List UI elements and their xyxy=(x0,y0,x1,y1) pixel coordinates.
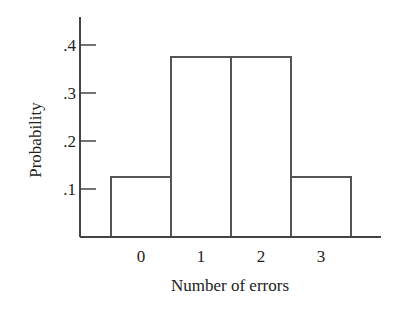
y-tick-label: .3 xyxy=(63,84,76,103)
x-tick-label: 3 xyxy=(317,247,326,266)
x-tick-label: 0 xyxy=(137,247,146,266)
x-tick-labels: 0123 xyxy=(137,247,326,266)
bar-0 xyxy=(111,177,171,237)
y-tick-label: .1 xyxy=(63,180,76,199)
bar-3 xyxy=(291,177,351,237)
y-tick-label: .4 xyxy=(63,36,76,55)
bar-2 xyxy=(231,57,291,237)
histogram-chart: .1.2.3.4 0123 Number of errors Probabili… xyxy=(0,0,402,312)
bars xyxy=(111,57,351,237)
y-axis-label: Probability xyxy=(26,102,45,178)
x-tick-label: 1 xyxy=(197,247,206,266)
y-tick-label: .2 xyxy=(63,132,76,151)
x-tick-label: 2 xyxy=(257,247,266,266)
x-axis-label: Number of errors xyxy=(171,276,289,295)
bar-1 xyxy=(171,57,231,237)
